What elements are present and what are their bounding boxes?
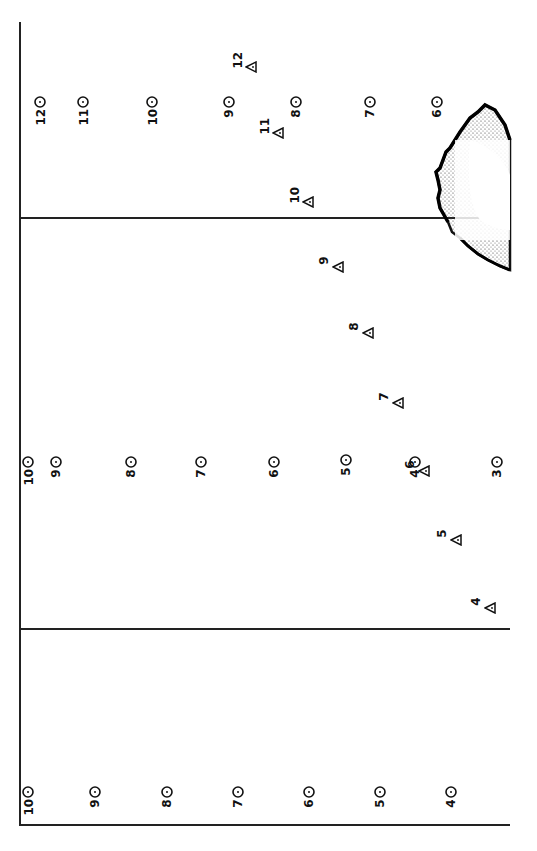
triangle-dot-icon [450,534,462,546]
circle-point-label: 7 [232,800,244,808]
circle-dot-icon [431,96,443,108]
circle-dot-icon [22,786,34,798]
circle-point-label: 3 [491,470,503,478]
circle-dot-icon [50,456,62,468]
triangle-dot-icon [245,61,257,73]
triangle-point-label: 11 [258,120,270,135]
circle-dot-icon [34,96,46,108]
triangle-dot-icon [272,127,284,139]
circle-dot-icon [232,786,244,798]
circle-dot-icon [303,786,315,798]
circle-point-label: 9 [223,110,235,118]
triangle-dot-icon [392,397,404,409]
circle-point-label: 4 [445,800,457,808]
triangle-dot-icon [302,196,314,208]
circle-dot-icon [290,96,302,108]
circle-dot-icon [374,786,386,798]
circle-point-label: 6 [431,110,443,118]
circle-point-label: 9 [50,470,62,478]
circle-point-label: 12 [34,110,46,125]
circle-point-label: 6 [303,800,315,808]
circle-dot-icon [491,456,503,468]
triangle-point-label: 7 [378,393,390,401]
circle-dot-icon [146,96,158,108]
circle-point-label: 10 [22,470,34,485]
triangle-point-label: 9 [318,257,330,265]
triangle-point-label: 5 [436,530,448,538]
circle-dot-icon [89,786,101,798]
triangle-point-label: 10 [288,189,300,204]
circle-point-label: 5 [374,800,386,808]
circle-point-label: 10 [22,800,34,815]
circle-point-label: 9 [89,800,101,808]
triangle-dot-icon [418,465,430,477]
circle-dot-icon [340,454,352,466]
circle-point-label: 8 [290,110,302,118]
circle-point-label: 11 [77,110,89,125]
circle-dot-icon [125,456,137,468]
circle-dot-icon [364,96,376,108]
triangle-dot-icon [484,602,496,614]
circle-point-label: 8 [161,800,173,808]
triangle-dot-icon [362,327,374,339]
triangle-point-label: 6 [404,461,416,469]
figure-canvas: 121110987610987654310987654 121110987654 [0,0,537,851]
circle-point-label: 6 [268,470,280,478]
circle-point-label: 7 [195,470,207,478]
circle-point-label: 5 [340,468,352,476]
triangle-dot-icon [332,261,344,273]
circle-point-label: 8 [125,470,137,478]
circle-dot-icon [268,456,280,468]
circle-dot-icon [77,96,89,108]
circle-dot-icon [22,456,34,468]
circle-dot-icon [223,96,235,108]
circle-dot-icon [195,456,207,468]
triangle-point-label: 4 [470,598,482,606]
triangle-point-label: 12 [231,54,243,69]
circle-dot-icon [445,786,457,798]
circle-point-label: 10 [146,110,158,125]
circle-point-label: 7 [364,110,376,118]
circle-dot-icon [161,786,173,798]
triangle-point-label: 8 [348,323,360,331]
